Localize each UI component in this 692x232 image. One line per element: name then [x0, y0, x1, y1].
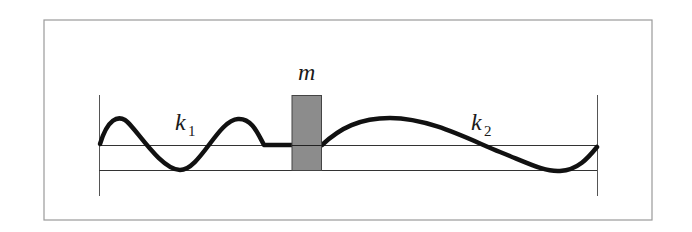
spring-k2-label: k	[471, 109, 482, 135]
spring-k1	[100, 118, 292, 170]
spring-k2-subscript: 2	[484, 123, 492, 139]
figure-frame	[44, 20, 652, 220]
spring-mass-diagram: m k 1 k 2	[0, 0, 692, 232]
spring-k1-label: k	[175, 109, 186, 135]
spring-k1-subscript: 1	[188, 123, 196, 139]
spring-k2	[322, 118, 597, 171]
mass-label: m	[298, 59, 315, 85]
mass-block	[292, 96, 322, 171]
